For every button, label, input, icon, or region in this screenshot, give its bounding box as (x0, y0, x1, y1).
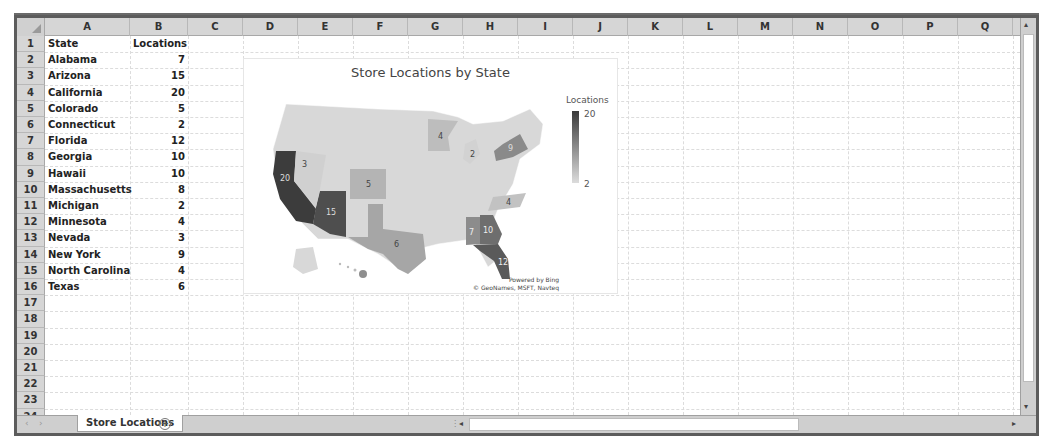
next-sheet-icon[interactable]: › (39, 418, 43, 428)
state-hawaii (359, 270, 367, 278)
cell-state[interactable]: Arizona (48, 68, 127, 84)
gridline (628, 36, 629, 415)
vertical-scrollbar[interactable]: ▴ ▾ (1020, 18, 1036, 415)
row-header-5[interactable]: 5 (17, 101, 45, 117)
column-header-p[interactable]: P (903, 18, 958, 36)
cell-state[interactable]: Florida (48, 133, 127, 149)
cell-state[interactable]: Georgia (48, 149, 127, 165)
row-header-16[interactable]: 16 (17, 279, 45, 295)
column-header-h[interactable]: H (463, 18, 518, 36)
column-header-j[interactable]: J (573, 18, 628, 36)
cell-state[interactable]: Michigan (48, 198, 127, 214)
label-ca: 20 (280, 174, 290, 183)
horizontal-scroll-thumb[interactable] (469, 418, 799, 431)
cell-state[interactable]: New York (48, 247, 127, 263)
cell-locations[interactable]: 3 (133, 230, 185, 246)
cell-locations[interactable]: 12 (133, 133, 185, 149)
row-header-21[interactable]: 21 (17, 360, 45, 376)
cell-state[interactable]: Alabama (48, 52, 127, 68)
row-header-11[interactable]: 11 (17, 198, 45, 214)
cell-state[interactable]: Connecticut (48, 117, 127, 133)
row-header-23[interactable]: 23 (17, 392, 45, 408)
cell-locations[interactable]: 15 (133, 68, 185, 84)
cell-locations[interactable]: 5 (133, 101, 185, 117)
scroll-down-icon[interactable]: ▾ (1024, 402, 1028, 411)
column-header-o[interactable]: O (848, 18, 903, 36)
row-header-7[interactable]: 7 (17, 133, 45, 149)
cell-a1-header-state[interactable]: State (48, 36, 127, 52)
column-header-n[interactable]: N (793, 18, 848, 36)
legend-title: Locations (566, 95, 609, 105)
prev-sheet-icon[interactable]: ‹ (25, 418, 29, 428)
label-tx: 6 (394, 240, 399, 249)
row-header-14[interactable]: 14 (17, 247, 45, 263)
column-header-a[interactable]: A (45, 18, 130, 36)
cell-state[interactable]: Minnesota (48, 214, 127, 230)
row-header-13[interactable]: 13 (17, 230, 45, 246)
column-header-k[interactable]: K (628, 18, 683, 36)
label-nc: 4 (506, 198, 511, 207)
select-all-icon (32, 24, 41, 33)
column-header-f[interactable]: F (353, 18, 408, 36)
cell-locations[interactable]: 2 (133, 198, 185, 214)
row-header-19[interactable]: 19 (17, 328, 45, 344)
row-header-12[interactable]: 12 (17, 214, 45, 230)
gridline (45, 328, 1020, 329)
select-all-corner[interactable] (17, 18, 45, 36)
cell-state[interactable]: North Carolina (48, 263, 127, 279)
gridline (903, 36, 904, 415)
row-header-17[interactable]: 17 (17, 295, 45, 311)
cell-state[interactable]: Texas (48, 279, 127, 295)
scroll-right-icon[interactable]: ▸ (1012, 419, 1016, 428)
scroll-up-icon[interactable]: ▴ (1024, 20, 1028, 29)
cell-locations[interactable]: 4 (133, 263, 185, 279)
cell-locations[interactable]: 2 (133, 117, 185, 133)
add-sheet-button[interactable]: + (159, 418, 171, 430)
map-chart[interactable]: Store Locations by State (243, 58, 618, 294)
cell-locations[interactable]: 10 (133, 166, 185, 182)
cell-locations[interactable]: 20 (133, 85, 185, 101)
column-header-e[interactable]: E (298, 18, 353, 36)
column-header-l[interactable]: L (683, 18, 738, 36)
row-header-2[interactable]: 2 (17, 52, 45, 68)
cell-state[interactable]: California (48, 85, 127, 101)
row-header-4[interactable]: 4 (17, 85, 45, 101)
column-header-i[interactable]: I (518, 18, 573, 36)
scroll-left-icon[interactable]: ◂ (459, 419, 463, 428)
row-header-9[interactable]: 9 (17, 166, 45, 182)
cell-state[interactable]: Colorado (48, 101, 127, 117)
column-header-b[interactable]: B (130, 18, 188, 36)
column-header-c[interactable]: C (188, 18, 243, 36)
row-header-18[interactable]: 18 (17, 311, 45, 327)
cell-locations[interactable]: 9 (133, 247, 185, 263)
row-header-10[interactable]: 10 (17, 182, 45, 198)
row-header-3[interactable]: 3 (17, 68, 45, 84)
tab-split-handle[interactable]: ⋮ (451, 419, 459, 428)
column-header-g[interactable]: G (408, 18, 463, 36)
cell-state[interactable]: Massachusetts (48, 182, 127, 198)
label-ga: 10 (483, 226, 493, 235)
gridline (45, 392, 1020, 393)
cell-b1-header-locations[interactable]: Locations (133, 36, 185, 52)
cell-locations[interactable]: 6 (133, 279, 185, 295)
column-header-q[interactable]: Q (958, 18, 1013, 36)
row-header-22[interactable]: 22 (17, 376, 45, 392)
column-header-row: ABCDEFGHIJKLMNOPQ (17, 18, 1020, 36)
sheet-tab-bar: ‹ › Store Locations + ⋮ ◂ ▸ (17, 415, 1036, 433)
cell-locations[interactable]: 10 (133, 149, 185, 165)
row-header-15[interactable]: 15 (17, 263, 45, 279)
column-header-m[interactable]: M (738, 18, 793, 36)
cell-locations[interactable]: 7 (133, 52, 185, 68)
column-header-d[interactable]: D (243, 18, 298, 36)
us-map: 20 3 15 5 6 4 2 9 4 7 10 12 (258, 89, 558, 289)
cell-locations[interactable]: 4 (133, 214, 185, 230)
row-header-6[interactable]: 6 (17, 117, 45, 133)
cell-state[interactable]: Hawaii (48, 166, 127, 182)
row-header-8[interactable]: 8 (17, 149, 45, 165)
state-alaska (293, 247, 318, 274)
vertical-scroll-thumb[interactable] (1023, 34, 1034, 382)
cell-locations[interactable]: 8 (133, 182, 185, 198)
row-header-1[interactable]: 1 (17, 36, 45, 52)
row-header-20[interactable]: 20 (17, 344, 45, 360)
cell-state[interactable]: Nevada (48, 230, 127, 246)
